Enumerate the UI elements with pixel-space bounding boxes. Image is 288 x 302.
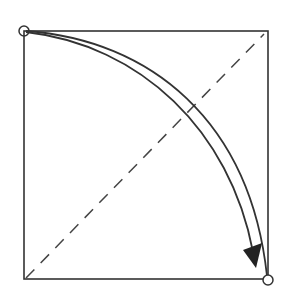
fold-diagram: [0, 0, 288, 302]
end-corner-marker: [263, 275, 273, 285]
fold-line-dashed: [26, 34, 264, 278]
fold-arrow-curve: [26, 32, 253, 252]
arrowhead-icon: [243, 243, 262, 268]
